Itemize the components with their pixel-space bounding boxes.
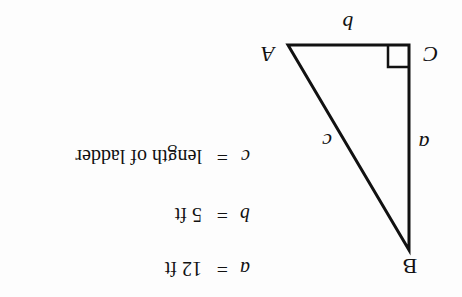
vertex-label-b: B <box>403 254 418 279</box>
legend-var-a: a <box>240 258 250 280</box>
triangle-diagram: A C B b a c c = length of ladder b = 5 f… <box>0 0 462 297</box>
legend-row-c: c = length of ladder <box>75 145 250 168</box>
legend-value-b: 5 ft <box>174 204 202 226</box>
vertex-label-a: A <box>261 42 277 67</box>
legend-var-c: c <box>241 146 250 168</box>
legend-eq-c: = <box>217 146 228 168</box>
side-label-b: b <box>343 11 354 36</box>
side-label-a: a <box>419 131 430 156</box>
legend-row-b: b = 5 ft <box>174 204 250 226</box>
side-label-c: c <box>322 129 332 154</box>
vertex-label-c: C <box>423 42 438 67</box>
legend-eq-b: = <box>217 204 228 226</box>
legend-value-c: length of ladder <box>75 145 202 168</box>
legend-eq-a: = <box>217 258 228 280</box>
legend-value-a: 12 ft <box>164 258 202 280</box>
right-angle-marker <box>388 45 409 67</box>
right-triangle-shape <box>288 45 409 250</box>
legend-var-b: b <box>240 204 250 226</box>
legend-row-a: a = 12 ft <box>164 258 250 280</box>
triangle-svg: A C B b a c c = length of ladder b = 5 f… <box>0 0 462 297</box>
